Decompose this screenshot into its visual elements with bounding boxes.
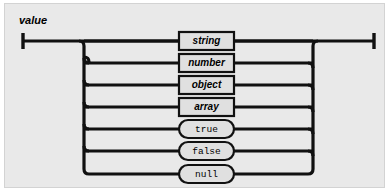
rail-joint-right-object (308, 85, 313, 90)
node-label-array: array (194, 101, 219, 112)
alternative-object[interactable]: object (84, 76, 313, 94)
rail-joint-left-true (84, 124, 89, 129)
node-label-object: object (192, 79, 222, 90)
alternative-string[interactable]: string (84, 32, 313, 50)
alternative-false[interactable]: false (84, 142, 313, 160)
rail-joint-right-true (308, 129, 313, 134)
alternative-array[interactable]: array (84, 98, 313, 116)
diagram-title: value (19, 14, 47, 26)
node-label-number: number (188, 57, 226, 68)
node-label-true: true (195, 124, 218, 135)
node-label-false: false (192, 146, 221, 157)
rail-joint-left-false (84, 146, 89, 151)
node-label-null: null (195, 169, 218, 180)
alternative-null[interactable]: null (89, 165, 308, 183)
rail-joint-right-number (308, 63, 313, 68)
alternative-number[interactable]: number (84, 54, 313, 72)
rail-joint-right-array (308, 107, 313, 112)
rail-joint-left-array (84, 102, 89, 107)
railroad-diagram-panel: string number object array (4, 3, 385, 188)
railroad-diagram-svg: string number object array (5, 4, 386, 189)
rail-joint-right-false (308, 151, 313, 156)
alternative-true[interactable]: true (84, 120, 313, 138)
rail-joint-left-object (84, 80, 89, 85)
node-label-string: string (193, 35, 221, 46)
